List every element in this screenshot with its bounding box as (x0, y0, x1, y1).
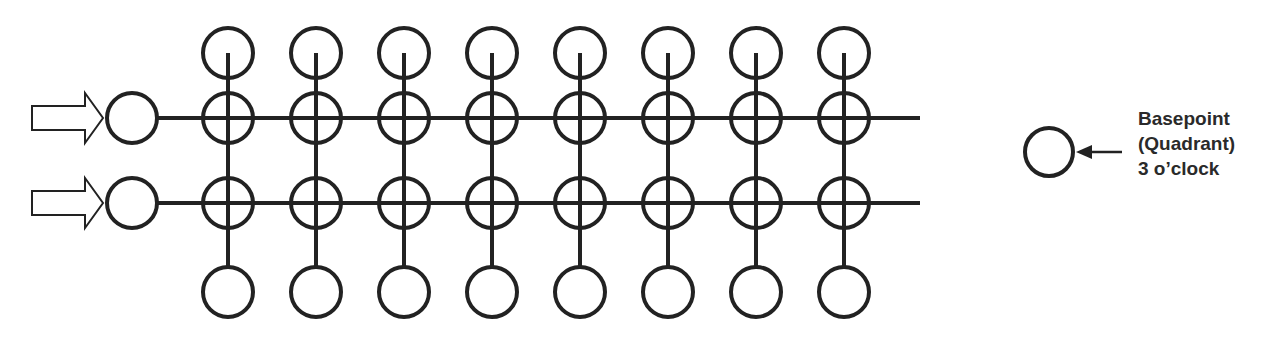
hollow-right-arrow-icon (32, 93, 103, 143)
bottom-circle-icon (819, 267, 869, 317)
bottom-circle-icon (467, 267, 517, 317)
basepoint-circle-icon (107, 178, 157, 228)
legend-circle-icon (1025, 128, 1073, 176)
legend-label: Basepoint (Quadrant) 3 o’clock (1138, 106, 1235, 181)
hollow-right-arrow-icon (32, 178, 103, 228)
bottom-circle-icon (643, 267, 693, 317)
bottom-circle-icon (555, 267, 605, 317)
legend-line-2: (Quadrant) (1138, 131, 1235, 156)
bottom-circle-icon (731, 267, 781, 317)
bottom-circle-icon (379, 267, 429, 317)
basepoint-circle-icon (107, 93, 157, 143)
bottom-circle-icon (203, 267, 253, 317)
bottom-circle-icon (291, 267, 341, 317)
legend-line-3: 3 o’clock (1138, 156, 1235, 181)
legend-line-1: Basepoint (1138, 106, 1235, 131)
lattice-diagram (0, 0, 1273, 343)
left-arrow-icon (1076, 145, 1092, 159)
